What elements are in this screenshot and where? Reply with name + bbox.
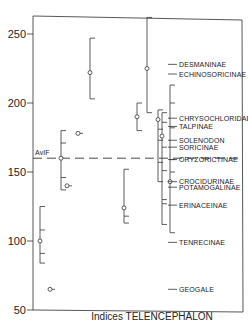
reference-line-label: AvIF (35, 149, 50, 156)
group-label: ECHINOSORICINAE (179, 71, 246, 78)
group-label: ERINACEINAE (179, 202, 228, 209)
data-column (76, 131, 83, 135)
mean-point (88, 71, 92, 75)
chart: 50100150200250 AvIF DESMANINAEECHINOSORI… (0, 0, 248, 325)
data-column (48, 287, 55, 291)
mean-point (38, 239, 42, 243)
y-tick-label: 150 (8, 166, 26, 178)
data-column (145, 17, 152, 112)
mean-point (59, 156, 63, 160)
group-label: DESMANINAE (179, 61, 227, 68)
group-label: TALPINAE (179, 123, 213, 130)
group-label: ORYZORICTINAE (179, 156, 238, 163)
y-tick-label: 250 (8, 28, 26, 40)
group-label: SORICINAE (179, 144, 219, 151)
data-column (65, 184, 72, 188)
x-axis-label: Indices TELENCEPHALON (91, 311, 213, 322)
group-label: GEOGALE (179, 286, 214, 293)
mean-point (65, 184, 69, 188)
data-column (59, 131, 66, 190)
data-column (168, 85, 175, 233)
y-tick-label: 100 (8, 235, 26, 247)
mean-point (76, 131, 80, 135)
y-tick-label: 200 (8, 97, 26, 109)
mean-point (48, 287, 52, 291)
mean-point (122, 206, 126, 210)
group-label: TENRECINAE (179, 239, 225, 246)
group-label: CHRYSOCHLORIDAE (179, 115, 248, 122)
data-column (122, 169, 129, 223)
group-label: POTAMOGALINAE (179, 184, 241, 191)
y-tick-label: 50 (14, 304, 26, 316)
data-column (88, 38, 95, 99)
mean-point (145, 67, 149, 71)
data-column (38, 207, 45, 264)
data-column (135, 103, 142, 131)
mean-point (135, 115, 139, 119)
mean-point (160, 134, 164, 138)
mean-point (156, 118, 160, 122)
